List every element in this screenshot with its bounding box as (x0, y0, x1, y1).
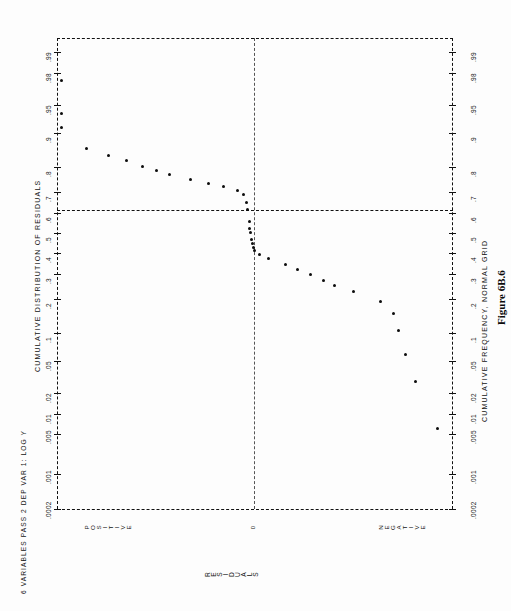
axis-tick-right (449, 274, 456, 275)
data-point (222, 185, 225, 188)
data-point (60, 79, 63, 82)
data-point (207, 182, 210, 185)
data-point (189, 178, 192, 181)
axis-tick-label-left: .4 (45, 257, 52, 263)
axis-tick-left (54, 105, 61, 106)
glyph: S (252, 572, 259, 578)
plot-border-bottom (57, 509, 453, 510)
axis-tick-left (54, 253, 61, 254)
axis-tick-label-left: .7 (45, 196, 52, 202)
axis-tick-right (449, 361, 456, 362)
axis-tick-label-right: .001 (470, 470, 477, 484)
axis-tick-label-left: .8 (45, 171, 52, 177)
glyph: 0 (249, 525, 256, 531)
data-point (125, 159, 128, 162)
axis-tick-label-left: .98 (45, 73, 52, 83)
data-point (245, 201, 248, 204)
axis-tick-left (54, 393, 61, 394)
data-point (168, 173, 171, 176)
data-point (85, 147, 88, 150)
axis-tick-right (449, 192, 456, 193)
axis-tick-label-left: .99 (45, 52, 52, 62)
axis-tick-right (449, 233, 456, 234)
axis-tick-label-right: .4 (470, 257, 477, 263)
figure-header-left: 6 VARIABLES PASS 2 DEP VAR 1: LOG Y (20, 430, 27, 594)
axis-tick-left (54, 434, 61, 435)
axis-tick-label-left: .95 (45, 105, 52, 115)
axis-tick-label-right: .005 (470, 430, 477, 444)
axis-tick-left (54, 361, 61, 362)
data-point (251, 242, 254, 245)
axis-tick-right (449, 333, 456, 334)
axis-tick-label-right: .99 (470, 52, 477, 62)
data-point (60, 112, 63, 115)
data-point (60, 126, 63, 129)
axis-tick-label-left: .0002 (45, 501, 52, 519)
axis-tick-right (449, 414, 456, 415)
axis-tick-left (54, 414, 61, 415)
data-point (155, 169, 158, 172)
axis-tick-label-left: .9 (45, 137, 52, 143)
data-point (284, 263, 287, 266)
axis-tick-right (449, 393, 456, 394)
data-point (379, 300, 382, 303)
data-point (252, 246, 255, 249)
axis-tick-left (54, 509, 61, 510)
data-point (250, 238, 253, 241)
axis-tick-label-left: .02 (45, 393, 52, 403)
axis-title-right: CUMULATIVE FREQUENCY, NORMAL GRID (481, 240, 488, 422)
axis-tick-label-right: .0002 (470, 501, 477, 519)
data-point (397, 329, 400, 332)
data-point (392, 312, 395, 315)
data-point (267, 257, 270, 260)
axis-tick-label-right: .5 (470, 237, 477, 243)
axis-tick-right (449, 509, 456, 510)
data-point (236, 189, 239, 192)
axis-tick-label-left: .001 (45, 470, 52, 484)
axis-tick-left (54, 167, 61, 168)
axis-tick-right (449, 474, 456, 475)
data-point (253, 249, 256, 252)
axis-tick-left (54, 133, 61, 134)
data-point (322, 279, 325, 282)
axis-tick-label-right: .6 (470, 217, 477, 223)
axis-tick-label-right: .01 (470, 414, 477, 424)
axis-tick-left (54, 73, 61, 74)
data-point (107, 154, 110, 157)
axis-tick-label-left: .6 (45, 217, 52, 223)
axis-tick-left (54, 474, 61, 475)
figure-page: .0002.001.005.01.02.05.1.2.3.4.5.6.7.8.9… (0, 0, 511, 611)
data-point (248, 227, 251, 230)
axis-tick-label-right: .3 (470, 278, 477, 284)
axis-tick-label-left: .01 (45, 414, 52, 424)
region-label-negative: NEGATIVE (377, 524, 425, 531)
axis-tick-label-left: .05 (45, 361, 52, 371)
figure-caption: Figure 6B.6 (495, 270, 507, 325)
data-point (352, 290, 355, 293)
data-point (141, 165, 144, 168)
axis-tick-left (54, 299, 61, 300)
axis-tick-left (54, 274, 61, 275)
data-point (249, 231, 252, 234)
plot-border-top (57, 38, 453, 39)
axis-tick-label-right: .1 (470, 337, 477, 343)
axis-tick-left (54, 192, 61, 193)
data-point (333, 284, 336, 287)
axis-tick-label-left: .005 (45, 430, 52, 444)
axis-title-bottom: RESIDUALS (204, 571, 258, 578)
axis-title-left: CUMULATIVE DISTRIBUTION OF RESIDUALS (34, 180, 41, 372)
axis-tick-label-left: .3 (45, 278, 52, 284)
data-point (248, 220, 251, 223)
axis-tick-right (449, 52, 456, 53)
axis-tick-right (449, 73, 456, 74)
axis-tick-right (449, 213, 456, 214)
axis-tick-left (54, 233, 61, 234)
reference-line-median (57, 210, 453, 211)
axis-tick-right (449, 167, 456, 168)
axis-tick-label-left: .1 (45, 337, 52, 343)
axis-tick-label-right: .05 (470, 361, 477, 371)
axis-tick-label-right: .95 (470, 105, 477, 115)
axis-tick-right (449, 299, 456, 300)
axis-tick-right (449, 253, 456, 254)
region-label-zero: 0 (249, 524, 255, 531)
